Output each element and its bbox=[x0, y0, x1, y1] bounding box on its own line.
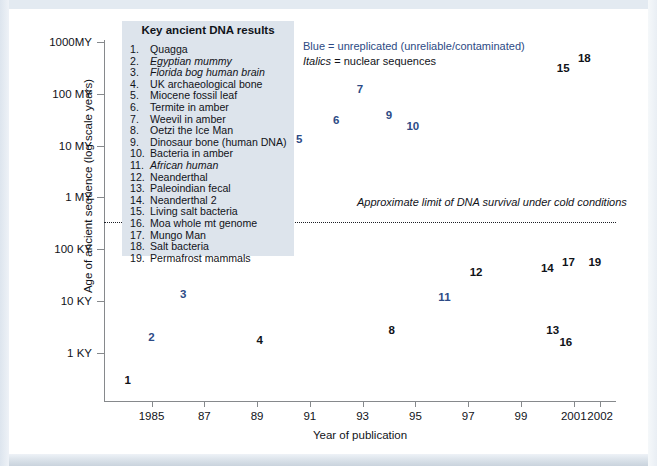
y-tick-mark bbox=[97, 42, 104, 43]
x-tick-label: 1985 bbox=[139, 410, 165, 422]
y-tick-mark bbox=[97, 249, 104, 250]
data-point-11: 11 bbox=[438, 291, 450, 303]
data-point-14: 14 bbox=[541, 262, 554, 274]
data-point-17: 17 bbox=[562, 256, 575, 268]
data-point-4: 4 bbox=[257, 334, 263, 346]
data-point-6: 6 bbox=[333, 114, 339, 126]
data-point-9: 9 bbox=[386, 109, 392, 121]
data-point-2: 2 bbox=[148, 331, 154, 343]
x-tick-label: 89 bbox=[251, 410, 264, 422]
x-axis-label: Year of publication bbox=[104, 429, 616, 441]
y-axis-label: Age of ancient sequence (log scale years… bbox=[82, 36, 94, 336]
x-tick-label: 87 bbox=[198, 410, 211, 422]
figure-ancient-dna-results: 1000MY100 MY10 MY1 MY100 KY10 KY1 KY 198… bbox=[0, 0, 657, 466]
data-point-16: 16 bbox=[559, 336, 572, 348]
x-tick-label: 93 bbox=[356, 410, 369, 422]
x-tick-label: 97 bbox=[462, 410, 475, 422]
y-tick-label: 1 KY bbox=[26, 353, 92, 365]
data-point-19: 19 bbox=[588, 256, 601, 268]
data-point-15: 15 bbox=[557, 62, 570, 74]
data-point-18: 18 bbox=[578, 52, 591, 64]
figure-border-right bbox=[648, 0, 657, 466]
data-point-12: 12 bbox=[470, 266, 483, 278]
x-tick-label: 99 bbox=[515, 410, 528, 422]
figure-border-left bbox=[0, 0, 9, 466]
figure-border-top bbox=[0, 0, 657, 9]
y-tick-mark bbox=[97, 353, 104, 354]
data-point-7: 7 bbox=[357, 83, 363, 95]
y-tick-mark bbox=[97, 94, 104, 95]
data-point-1: 1 bbox=[125, 374, 131, 386]
figure-border-bottom bbox=[0, 454, 657, 466]
data-point-10: 10 bbox=[406, 120, 419, 132]
data-point-3: 3 bbox=[180, 288, 186, 300]
y-tick-label-text: 1 KY bbox=[26, 347, 92, 359]
y-tick-mark bbox=[97, 146, 104, 147]
legend-title: Key ancient DNA results bbox=[122, 24, 294, 36]
y-tick-mark bbox=[97, 197, 104, 198]
data-point-8: 8 bbox=[388, 324, 394, 336]
x-tick-label: 2001 bbox=[561, 410, 587, 422]
data-point-5: 5 bbox=[296, 133, 302, 145]
x-tick-label: 2002 bbox=[587, 410, 613, 422]
x-tick-label: 91 bbox=[303, 410, 316, 422]
data-point-13: 13 bbox=[546, 324, 559, 336]
y-tick-mark bbox=[97, 301, 104, 302]
x-tick-label: 95 bbox=[409, 410, 422, 422]
